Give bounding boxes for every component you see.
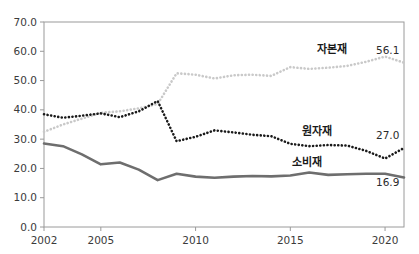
series-end-value-소비재: 16.9 (376, 176, 399, 188)
x-tick-label: 2015 (277, 234, 304, 246)
series-end-value-자본재: 56.1 (376, 44, 399, 56)
x-tick-label: 2020 (372, 234, 399, 246)
series-name-label-자본재: 자본재 (317, 42, 347, 56)
y-tick-label: 50.0 (14, 74, 37, 86)
series-line-자본재 (44, 57, 404, 132)
y-axis-ticks: 0.010.020.030.040.050.060.070.0 (14, 16, 44, 233)
plot-border (44, 22, 404, 227)
series-lines (44, 57, 404, 181)
y-tick-label: 70.0 (14, 16, 37, 28)
x-tick-label: 2002 (31, 234, 58, 246)
y-tick-label: 20.0 (14, 162, 37, 174)
series-name-label-소비재: 소비재 (292, 155, 322, 169)
y-tick-label: 0.0 (20, 221, 37, 233)
plot-frame (44, 22, 404, 227)
y-tick-label: 40.0 (14, 103, 37, 115)
chart-container: 0.010.020.030.040.050.060.070.0 20022005… (0, 0, 419, 254)
y-tick-label: 60.0 (14, 45, 37, 57)
y-tick-label: 10.0 (14, 191, 37, 203)
x-axis-ticks: 20022005201020152020 (31, 227, 399, 246)
y-tick-label: 30.0 (14, 133, 37, 145)
x-tick-label: 2005 (87, 234, 114, 246)
x-tick-label: 2010 (182, 234, 209, 246)
series-line-소비재 (44, 144, 404, 181)
series-line-원자재 (44, 101, 404, 158)
series-annotations: 자본재56.1원자재27.0소비재16.9 (292, 42, 399, 188)
line-chart: 0.010.020.030.040.050.060.070.0 20022005… (0, 0, 419, 254)
series-end-value-원자재: 27.0 (376, 129, 399, 141)
series-name-label-원자재: 원자재 (302, 124, 332, 138)
